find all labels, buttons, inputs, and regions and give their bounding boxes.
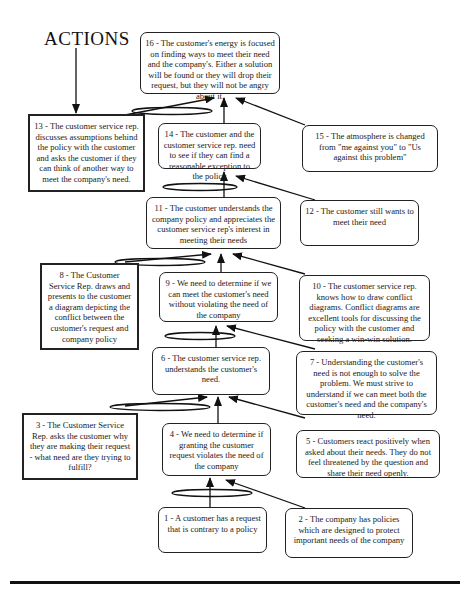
node-3: 3 - The Customer Service Rep. asks the c…: [22, 413, 138, 480]
node-7: 7 - Understanding the customer's need is…: [296, 351, 437, 415]
node-14: 14 - The customer and the customer servi…: [158, 123, 261, 169]
node-8: 8 - The Customer Service Rep. draws and …: [40, 263, 139, 350]
node-11: 11 - The customer understands the compan…: [146, 197, 281, 249]
node-1: 1 - A customer has a request that is con…: [158, 507, 267, 553]
node-15: 15 - The atmosphere is changed from "me …: [302, 125, 438, 172]
page-divider: [10, 581, 460, 584]
node-13: 13 - The customer service rep. discusses…: [28, 114, 145, 192]
node-4: 4 - We need to determine if granting the…: [162, 423, 271, 476]
node-9: 9 - We need to determine if we can meet …: [159, 272, 278, 322]
node-6: 6 - The customer service rep. understand…: [152, 347, 270, 395]
node-12: 12 - The customer still wants to meet th…: [300, 200, 419, 246]
node-10: 10 - The customer service rep. knows how…: [299, 275, 430, 341]
node-5: 5 - Customers react positively when aske…: [296, 430, 440, 478]
node-2: 2 - The company has policies which are d…: [285, 508, 413, 558]
node-16: 16 - The customer's energy is focused on…: [140, 32, 280, 94]
